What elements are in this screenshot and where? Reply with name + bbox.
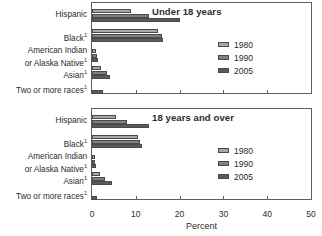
bar <box>92 160 95 164</box>
bar <box>92 177 105 181</box>
axis-tick-mark <box>223 90 224 93</box>
bar <box>92 144 142 148</box>
category-label: Asian1 <box>63 174 87 186</box>
legend-item[interactable]: 1980 <box>218 39 253 52</box>
legend-item[interactable]: 2005 <box>218 65 253 78</box>
bar <box>92 18 180 22</box>
bar <box>92 135 138 139</box>
legend-swatch <box>218 42 229 47</box>
bar <box>92 192 93 196</box>
legend-item[interactable]: 1990 <box>218 158 253 171</box>
panel-18-and-over: HispanicBlack1American Indianor Alaska N… <box>0 108 322 208</box>
category-label: Hispanic <box>56 11 87 20</box>
legend-label: 2005 <box>234 172 253 182</box>
bar <box>92 9 131 13</box>
panel-under-18: HispanicBlack1American Indianor Alaska N… <box>0 2 322 102</box>
legend-label: 1980 <box>234 146 253 156</box>
x-axis-tick-label: 10 <box>131 209 140 219</box>
legend-swatch <box>218 68 229 73</box>
bar <box>92 172 100 176</box>
plot-area-top: Under 18 years 198019902005 <box>91 2 312 94</box>
bar <box>92 164 96 168</box>
x-axis-tick-label: 0 <box>90 209 95 219</box>
legend-label: 1990 <box>234 159 253 169</box>
x-axis-tick-label: 30 <box>219 209 228 219</box>
category-labels-top: HispanicBlack1American Indianor Alaska N… <box>0 2 89 94</box>
bar <box>92 181 112 185</box>
category-label: American Indianor Alaska Native1 <box>25 153 87 174</box>
x-axis-tick-label: 20 <box>175 209 184 219</box>
bar <box>92 196 97 200</box>
axis-tick-mark <box>223 196 224 199</box>
bar <box>92 75 110 79</box>
bar <box>92 90 103 94</box>
chart-container: HispanicBlack1American Indianor Alaska N… <box>0 0 322 236</box>
category-label: Two or more races1 <box>16 189 87 201</box>
plot-area-bottom: 18 years and over 198019902005 <box>91 108 312 200</box>
legend-item[interactable]: 1990 <box>218 52 253 65</box>
bar <box>92 81 93 85</box>
x-axis-tick-labels: 01020304050 <box>91 209 312 221</box>
bar <box>92 49 96 53</box>
axis-tick-mark <box>136 196 137 199</box>
bar <box>92 120 127 124</box>
bar <box>92 140 140 144</box>
category-label: Two or more races1 <box>16 83 87 95</box>
legend-bottom: 198019902005 <box>218 145 253 184</box>
category-label: Black1 <box>64 137 87 149</box>
panel-title-bottom: 18 years and over <box>152 112 234 123</box>
bar <box>92 58 98 62</box>
axis-tick-mark <box>180 90 181 93</box>
bar <box>92 54 97 58</box>
legend-label: 1990 <box>234 53 253 63</box>
bar <box>92 71 107 75</box>
bar <box>92 34 162 38</box>
legend-label: 1980 <box>234 40 253 50</box>
legend-top: 198019902005 <box>218 39 253 78</box>
category-label: Asian1 <box>63 68 87 80</box>
legend-label: 2005 <box>234 66 253 76</box>
axis-tick-mark <box>180 196 181 199</box>
bar <box>92 86 93 90</box>
legend-swatch <box>218 148 229 153</box>
axis-tick-mark <box>267 90 268 93</box>
x-axis-title: Percent <box>91 221 312 231</box>
axis-tick-mark <box>136 90 137 93</box>
axis-tick-mark <box>267 196 268 199</box>
panel-title-top: Under 18 years <box>152 6 222 17</box>
bar <box>92 187 93 191</box>
bar <box>92 38 163 42</box>
legend-swatch <box>218 161 229 166</box>
legend-item[interactable]: 2005 <box>218 171 253 184</box>
legend-swatch <box>218 174 229 179</box>
category-label: American Indianor Alaska Native1 <box>25 47 87 68</box>
legend-swatch <box>218 55 229 60</box>
category-label: Black1 <box>64 31 87 43</box>
bar <box>92 155 95 159</box>
x-axis-tick-label: 50 <box>306 209 315 219</box>
category-label: Hispanic <box>56 117 87 126</box>
category-labels-bottom: HispanicBlack1American Indianor Alaska N… <box>0 108 89 200</box>
bar <box>92 66 101 70</box>
bar <box>92 124 149 128</box>
x-axis-tick-label: 40 <box>262 209 271 219</box>
bar <box>92 115 116 119</box>
bar <box>92 29 158 33</box>
legend-item[interactable]: 1980 <box>218 145 253 158</box>
bar <box>92 14 149 18</box>
